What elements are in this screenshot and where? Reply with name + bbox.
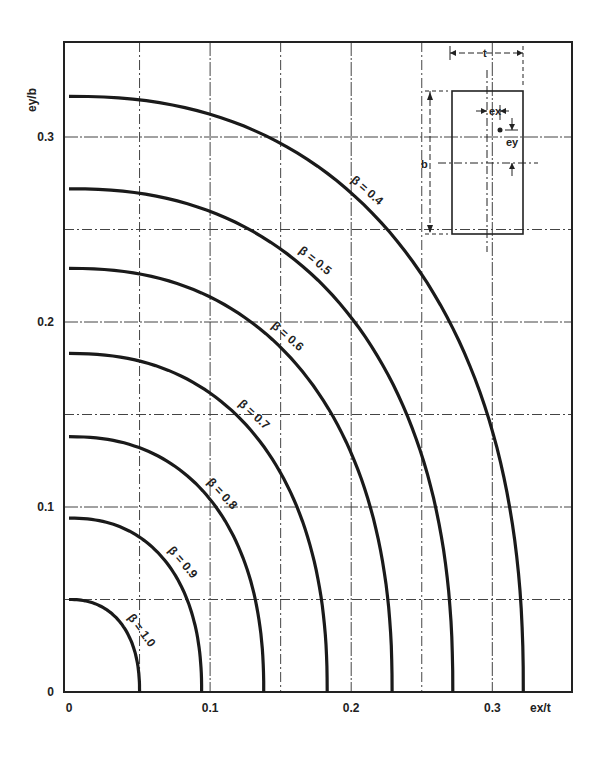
beta-curve — [69, 96, 523, 692]
beta-curve — [69, 268, 392, 692]
y-tick-label: 0.1 — [37, 500, 54, 514]
beta-curves — [69, 96, 523, 692]
curve-label: β = 0.5 — [296, 243, 334, 278]
curve-labels: β = 0.4β = 0.5β = 0.6β = 0.7β = 0.8β = 0… — [125, 173, 386, 650]
beta-curve — [69, 600, 140, 693]
x-tick-label: 0.3 — [484, 701, 501, 715]
inset-label-ey: ey — [506, 136, 519, 148]
section-inset-diagram — [425, 46, 538, 252]
interaction-chart: β = 0.4β = 0.5β = 0.6β = 0.7β = 0.8β = 0… — [0, 0, 598, 764]
inset-label-ex: ex — [489, 105, 502, 117]
beta-curve — [69, 518, 202, 692]
x-tick-label: 0 — [66, 701, 73, 715]
curve-label: β = 1.0 — [125, 611, 159, 650]
x-axis-ticks: 00.10.20.3 — [66, 701, 501, 715]
y-tick-label: 0.3 — [37, 130, 54, 144]
inset-label-t: t — [483, 47, 487, 59]
curve-label: β = 0.6 — [269, 318, 307, 354]
plot-frame — [64, 42, 572, 692]
inset-label-b: b — [421, 158, 428, 170]
curve-label: β = 0.9 — [165, 543, 200, 581]
grid-lines — [64, 42, 572, 692]
curve-label: β = 0.4 — [348, 173, 386, 209]
load-point — [498, 128, 503, 133]
x-axis-title: ex/t — [530, 701, 551, 715]
x-tick-label: 0.2 — [343, 701, 360, 715]
x-tick-label: 0.1 — [202, 701, 219, 715]
y-axis-ticks: 00.10.20.3 — [37, 130, 54, 699]
y-tick-label: 0 — [47, 685, 54, 699]
y-tick-label: 0.2 — [37, 315, 54, 329]
y-axis-title: ey/b — [25, 88, 39, 112]
